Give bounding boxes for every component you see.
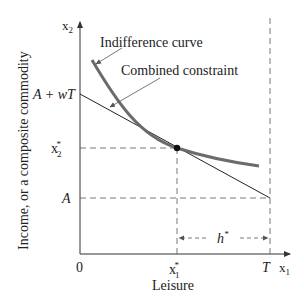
indifference-curve-label: Indifference curve xyxy=(100,35,203,50)
tick-x1-star: x1* xyxy=(169,260,180,280)
tick-x2-star: x2* xyxy=(51,139,62,159)
tangency-point xyxy=(174,145,180,151)
tick-t: T xyxy=(262,260,271,275)
combined-constraint-label: Combined constraint xyxy=(121,63,238,78)
x-axis-var: x1 xyxy=(279,260,290,277)
y-axis-var: x2 xyxy=(62,18,73,35)
origin-label: 0 xyxy=(76,260,83,275)
y-axis-label: Income, or a composite commodity xyxy=(16,51,31,250)
constraint-pointer xyxy=(110,78,160,107)
tick-a-plus-wt: A + wT xyxy=(32,87,76,102)
indifference-pointer xyxy=(96,48,122,64)
x-axis-label: Leisure xyxy=(152,278,194,293)
labor-supply-diagram: x2 Income, or a composite commodity A + … xyxy=(0,0,304,296)
h-star-label: h* xyxy=(217,229,229,246)
tick-a: A xyxy=(61,191,71,206)
